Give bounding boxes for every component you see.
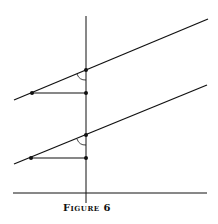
figure-diagram: [0, 0, 218, 224]
lower-right-dot: [84, 156, 88, 160]
lower-slanted-line: [14, 85, 207, 164]
lower-angle-arc: [77, 139, 86, 145]
upper-intersection-dot: [84, 68, 88, 72]
upper-left-dot: [30, 91, 34, 95]
upper-angle-arc: [77, 74, 86, 80]
upper-slanted-line: [14, 19, 208, 100]
lower-left-dot: [29, 156, 33, 160]
lower-intersection-dot: [84, 133, 88, 137]
figure-caption: Figure 6: [0, 202, 174, 213]
upper-right-dot: [84, 91, 88, 95]
